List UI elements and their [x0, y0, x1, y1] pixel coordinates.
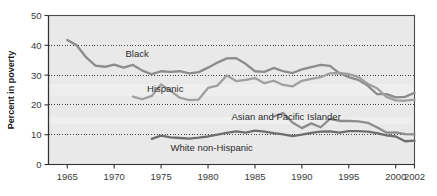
- y-axis-title: Percent in poverty: [6, 51, 16, 130]
- chart-canvas: 0102030405019651970197519801985199019952…: [0, 0, 437, 196]
- poverty-rate-chart-figure: 0102030405019651970197519801985199019952…: [0, 0, 437, 196]
- y-tick-label-10: 10: [31, 129, 42, 140]
- x-tick-label-1975: 1975: [151, 171, 172, 182]
- x-tick-label-1995: 1995: [338, 171, 359, 182]
- x-tick-label-2002: 2002: [404, 171, 425, 182]
- y-tick-label-0: 0: [36, 159, 41, 170]
- y-tick-label-50: 50: [31, 10, 42, 21]
- x-tick-label-1980: 1980: [197, 171, 218, 182]
- series-label-black: Black: [125, 48, 148, 59]
- background-band-0: [49, 84, 415, 96]
- series-label-asian-and-pacific-islander: Asian and Pacific Islander: [232, 111, 341, 122]
- y-tick-label-30: 30: [31, 70, 42, 81]
- x-tick-label-1970: 1970: [104, 171, 125, 182]
- series-label-hispanic: Hispanic: [147, 83, 184, 94]
- x-tick-label-1990: 1990: [291, 171, 312, 182]
- y-tick-label-20: 20: [31, 99, 42, 110]
- x-tick-label-1965: 1965: [57, 171, 78, 182]
- x-tick-label-1985: 1985: [244, 171, 265, 182]
- y-tick-label-40: 40: [31, 40, 42, 51]
- series-label-white-non-hispanic: White non-Hispanic: [171, 142, 254, 153]
